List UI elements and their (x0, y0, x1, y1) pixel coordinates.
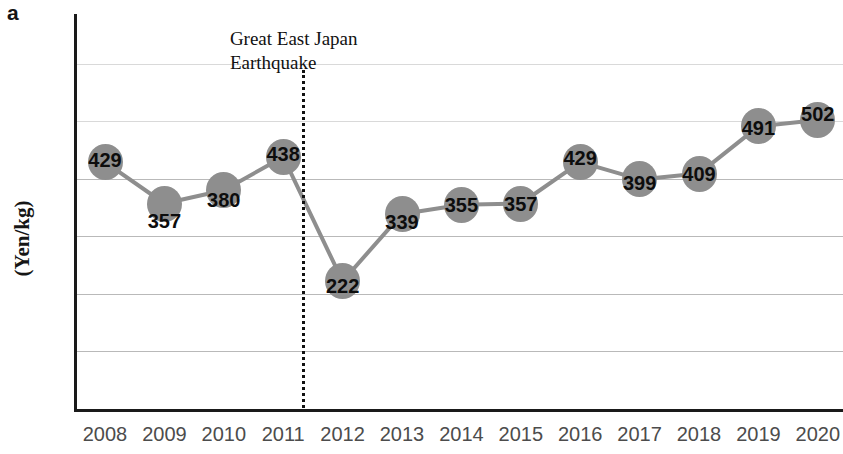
x-tick-2014: 2014 (439, 424, 484, 444)
x-tick-2020: 2020 (796, 424, 841, 444)
data-point-value-label: 380 (201, 190, 247, 210)
data-point-value-label: 438 (260, 144, 306, 164)
x-tick-2016: 2016 (558, 424, 603, 444)
data-point-value-label: 399 (617, 173, 663, 193)
x-tick-2010: 2010 (202, 424, 247, 444)
x-tick-2019: 2019 (736, 424, 781, 444)
x-tick-2009: 2009 (142, 424, 187, 444)
data-point-value-label: 357 (141, 211, 187, 231)
y-axis-label: (Yen/kg) (10, 149, 35, 329)
x-tick-2013: 2013 (380, 424, 425, 444)
data-point-value-label: 491 (735, 118, 781, 138)
data-point-value-label: 355 (438, 195, 484, 215)
x-tick-2017: 2017 (617, 424, 662, 444)
x-tick-2012: 2012 (320, 424, 365, 444)
data-point-value-label: 222 (320, 276, 366, 296)
x-tick-2011: 2011 (262, 424, 305, 444)
data-point-value-label: 429 (82, 150, 128, 170)
x-axis-tick-labels: 2008200920102011201220132014201520162017… (77, 424, 843, 450)
data-point-value-label: 409 (676, 164, 722, 184)
earthquake-event-line (302, 70, 305, 408)
chart-figure: a (Yen/kg) 42935738043822233935535742939… (0, 0, 843, 454)
earthquake-annotation-label: Great East Japan Earthquake (230, 27, 358, 74)
data-point-value-label: 429 (557, 148, 603, 168)
x-tick-2015: 2015 (499, 424, 544, 444)
plot-area: 429357380438222339355357429399409491502 … (77, 14, 843, 410)
y-axis-label-container: (Yen/kg) (0, 150, 44, 330)
x-tick-2018: 2018 (677, 424, 722, 444)
data-point-value-label: 339 (379, 212, 425, 232)
panel-letter: a (7, 2, 19, 23)
x-tick-2008: 2008 (83, 424, 128, 444)
data-point-value-label: 357 (498, 194, 544, 214)
data-point-value-label: 502 (795, 104, 841, 124)
